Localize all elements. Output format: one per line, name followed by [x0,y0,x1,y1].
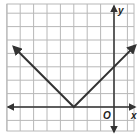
y-axis-label: y [117,5,124,16]
x-axis-label: x [130,110,137,121]
axes [8,6,135,132]
coordinate-graph: y x O [0,0,137,136]
origin-label: O [103,110,111,121]
absolute-value-curve [14,45,136,107]
grid-lines [7,4,134,131]
